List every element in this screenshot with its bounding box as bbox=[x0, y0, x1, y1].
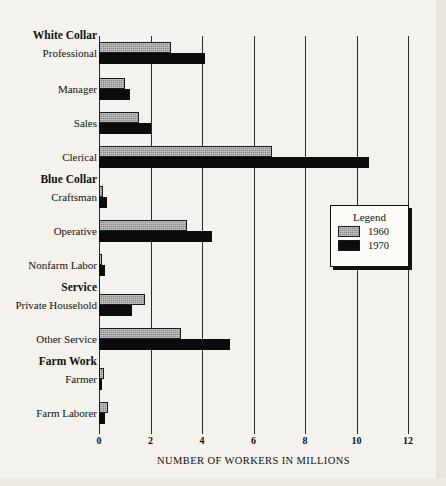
bar-1960 bbox=[99, 42, 171, 53]
x-tick-label-0: 0 bbox=[84, 435, 114, 446]
page-edge-right bbox=[436, 0, 446, 486]
category-label: Manager bbox=[1, 83, 97, 95]
category-label: Farm Laborer bbox=[1, 407, 97, 419]
bar-1970 bbox=[99, 53, 205, 64]
legend-swatch-1960-icon bbox=[338, 226, 360, 237]
category-label: Clerical bbox=[1, 151, 97, 163]
bar-1970 bbox=[99, 413, 105, 424]
legend-entry-1960: 1960 bbox=[338, 226, 408, 237]
legend-label-1970: 1970 bbox=[368, 240, 389, 251]
bar-1970 bbox=[99, 265, 105, 276]
group-header-label: White Collar bbox=[1, 29, 97, 41]
bar-1960 bbox=[99, 220, 187, 231]
chart-page: White CollarProfessionalManagerSalesCler… bbox=[0, 0, 446, 486]
bar-1960 bbox=[99, 186, 103, 197]
x-tick-label-8: 8 bbox=[290, 435, 320, 446]
category-label: Nonfarm Labor bbox=[1, 259, 97, 271]
bar-1960 bbox=[99, 146, 272, 157]
bar-1960 bbox=[99, 328, 181, 339]
group-header-label: Blue Collar bbox=[1, 173, 97, 185]
x-tick-6 bbox=[254, 427, 255, 434]
category-label: Craftsman bbox=[1, 191, 97, 203]
legend-title: Legend bbox=[331, 211, 408, 223]
x-tick-label-10: 10 bbox=[342, 435, 372, 446]
x-tick-12 bbox=[408, 427, 409, 434]
x-tick-label-2: 2 bbox=[136, 435, 166, 446]
bar-1970 bbox=[99, 157, 369, 168]
x-tick-label-4: 4 bbox=[187, 435, 217, 446]
category-label: Private Household bbox=[1, 299, 97, 311]
bar-1960 bbox=[99, 78, 125, 89]
bar-1970 bbox=[99, 123, 151, 134]
gridline-8 bbox=[305, 36, 306, 427]
bar-1970 bbox=[99, 339, 230, 350]
bar-1970 bbox=[99, 379, 102, 390]
category-axis-labels: White CollarProfessionalManagerSalesCler… bbox=[0, 36, 97, 427]
bar-1970 bbox=[99, 89, 130, 100]
bar-1970 bbox=[99, 305, 132, 316]
group-header-label: Service bbox=[1, 281, 97, 293]
x-tick-4 bbox=[202, 427, 203, 434]
bar-1970 bbox=[99, 197, 107, 208]
bar-1970 bbox=[99, 231, 212, 242]
category-label: Other Service bbox=[1, 333, 97, 345]
category-label: Sales bbox=[1, 117, 97, 129]
bar-1960 bbox=[99, 112, 139, 123]
bar-1960 bbox=[99, 402, 108, 413]
bar-1960 bbox=[99, 368, 104, 379]
group-header-label: Farm Work bbox=[1, 355, 97, 367]
x-tick-10 bbox=[357, 427, 358, 434]
x-tick-label-6: 6 bbox=[239, 435, 269, 446]
legend-swatch-1970-icon bbox=[338, 240, 360, 251]
legend-label-1960: 1960 bbox=[368, 226, 389, 237]
x-axis-title: NUMBER OF WORKERS IN MILLIONS bbox=[99, 455, 408, 466]
x-tick-8 bbox=[305, 427, 306, 434]
bar-1960 bbox=[99, 254, 102, 265]
category-label: Operative bbox=[1, 225, 97, 237]
category-label: Farmer bbox=[1, 373, 97, 385]
x-tick-label-12: 12 bbox=[393, 435, 423, 446]
page-edge-bottom bbox=[0, 478, 446, 486]
x-tick-2 bbox=[151, 427, 152, 434]
legend-entry-1970: 1970 bbox=[338, 240, 408, 251]
legend-box: Legend 1960 1970 bbox=[330, 205, 409, 267]
gridline-6 bbox=[254, 36, 255, 427]
x-tick-0 bbox=[99, 427, 100, 434]
bar-1960 bbox=[99, 294, 145, 305]
category-label: Professional bbox=[1, 47, 97, 59]
